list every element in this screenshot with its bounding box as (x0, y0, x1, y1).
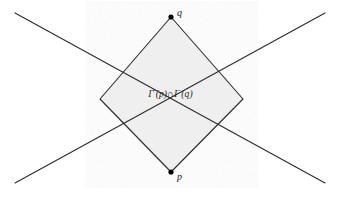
point-p-dot (168, 169, 173, 174)
region-label-second-set-argument: (q) (181, 89, 192, 99)
point-q-dot (168, 14, 173, 19)
causal-diamond-region-label: I+(p)∩I−(q) (0, 90, 341, 100)
causal-diamond-figure: q p I+(p)∩I−(q) (0, 0, 341, 197)
region-label-intersection-operator: ∩ (167, 89, 174, 99)
point-q-label: q (177, 8, 182, 18)
region-label-first-set-argument: (p) (156, 89, 167, 99)
point-p-label: p (177, 172, 182, 182)
